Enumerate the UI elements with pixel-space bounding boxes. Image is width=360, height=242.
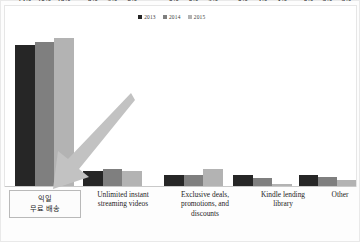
bar-group-4: 6%4%1% <box>233 2 292 186</box>
bar-2013[interactable] <box>233 175 253 186</box>
bar-slot: 6% <box>299 2 318 186</box>
chart-container: 2013 2014 2015 74%76%78%8%9%8%6%6%9%6%4%… <box>0 0 360 242</box>
category-label-line: Exclusive deals, <box>164 190 246 199</box>
bar-2014[interactable] <box>184 175 204 186</box>
bar-2015[interactable] <box>337 180 356 186</box>
bar-value-label: 9% <box>208 0 218 2</box>
bar-value-label: 6% <box>169 0 179 2</box>
bar-group-5: 6%5%3% <box>299 2 356 186</box>
bar-slot: 3% <box>337 2 356 186</box>
bar-slot: 6% <box>233 2 253 186</box>
category-labels: 익일무료 배송Unlimited instantstreaming videos… <box>4 190 357 240</box>
bar-groups: 74%76%78%8%9%8%6%6%9%6%4%1%6%5%3% <box>1 1 360 187</box>
category-label-line: Kindle lending <box>249 190 317 199</box>
bar-slot: 76% <box>35 2 55 186</box>
bar-value-label: 78% <box>58 0 71 2</box>
bar-value-label: 3% <box>342 0 352 2</box>
bar-slot: 1% <box>272 2 292 186</box>
bar-2014[interactable] <box>103 169 123 186</box>
category-label-1: 익일무료 배송 <box>9 190 81 218</box>
bar-value-label: 6% <box>304 0 314 2</box>
category-label-line: Unlimited instant <box>84 190 162 199</box>
bar-2014[interactable] <box>318 177 337 187</box>
category-label-2: Unlimited instantstreaming videos <box>84 190 162 209</box>
bar-group-2: 8%9%8% <box>83 2 142 186</box>
bar-2013[interactable] <box>15 45 35 186</box>
bar-value-label: 4% <box>258 0 268 2</box>
bar-slot: 9% <box>103 2 123 186</box>
bar-value-label: 9% <box>108 0 118 2</box>
bar-2014[interactable] <box>35 42 55 186</box>
bar-2015[interactable] <box>203 169 223 186</box>
bar-slot: 8% <box>122 2 142 186</box>
bar-value-label: 6% <box>189 0 199 2</box>
bar-2014[interactable] <box>253 178 273 186</box>
bar-2013[interactable] <box>83 171 103 186</box>
category-label-line: promotions, and <box>164 199 246 208</box>
bar-slot: 78% <box>54 2 74 186</box>
bar-slot: 8% <box>83 2 103 186</box>
category-label-line: 익일 <box>10 194 80 204</box>
category-label-line: 무료 배송 <box>10 204 80 214</box>
bar-slot: 6% <box>184 2 204 186</box>
category-label-5: Other <box>319 190 360 199</box>
bar-slot: 6% <box>164 2 184 186</box>
bar-2013[interactable] <box>299 175 318 186</box>
bar-group-1: 74%76%78% <box>15 2 74 186</box>
category-label-line: Other <box>319 190 360 199</box>
category-label-3: Exclusive deals,promotions, anddiscounts <box>164 190 246 218</box>
bar-slot: 4% <box>253 2 273 186</box>
bar-value-label: 8% <box>88 0 98 2</box>
bar-2013[interactable] <box>164 175 184 186</box>
bar-group-3: 6%6%9% <box>164 2 223 186</box>
bar-value-label: 74% <box>19 0 32 2</box>
category-label-line: discounts <box>164 209 246 218</box>
bar-value-label: 6% <box>238 0 248 2</box>
bar-slot: 74% <box>15 2 35 186</box>
category-label-line: streaming videos <box>84 199 162 208</box>
bar-2015[interactable] <box>54 38 74 186</box>
bar-slot: 9% <box>203 2 223 186</box>
bar-value-label: 8% <box>127 0 137 2</box>
bar-2015[interactable] <box>122 171 142 186</box>
bar-value-label: 1% <box>277 0 287 2</box>
bar-value-label: 5% <box>323 0 333 2</box>
category-label-line: library <box>249 199 317 208</box>
bar-slot: 5% <box>318 2 337 186</box>
category-label-4: Kindle lendinglibrary <box>249 190 317 209</box>
bar-value-label: 76% <box>38 0 51 2</box>
bar-2015[interactable] <box>272 184 292 186</box>
